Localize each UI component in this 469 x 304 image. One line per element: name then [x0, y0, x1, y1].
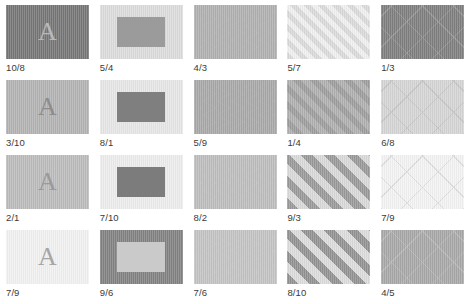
swatch-label: 8/2 [194, 212, 282, 224]
texture-swatch-chevron [194, 230, 277, 284]
swatch-letter-glyph: A [6, 19, 89, 45]
texture-swatch-diagonal [287, 230, 370, 284]
swatch-label: 4/5 [381, 287, 469, 299]
texture-swatch-grid: A10/85/44/35/71/3A3/108/15/91/46/8A2/17/… [0, 0, 469, 304]
swatch-label: 5/4 [100, 62, 188, 74]
texture-swatch-letter: A [6, 5, 89, 59]
swatch-cell: A10/8 [0, 0, 94, 75]
texture-swatch-letter: A [6, 80, 89, 134]
swatch-cell: A7/9 [0, 225, 94, 300]
texture-swatch-lattice [381, 80, 464, 134]
swatch-cell: 9/3 [281, 150, 375, 225]
swatch-cell: 5/7 [281, 0, 375, 75]
swatch-cell: 8/10 [281, 225, 375, 300]
texture-swatch-diagonal [287, 80, 370, 134]
swatch-inner-rectangle [117, 167, 165, 196]
swatch-cell: 1/4 [281, 75, 375, 150]
swatch-cell: 8/2 [188, 150, 282, 225]
swatch-label: 10/8 [6, 62, 94, 74]
texture-swatch-chevron [194, 155, 277, 209]
weave-overlay [287, 5, 370, 59]
weave-overlay [381, 80, 464, 134]
swatch-cell: 7/10 [94, 150, 188, 225]
swatch-inner-rectangle [117, 17, 165, 46]
texture-swatch-lattice [381, 230, 464, 284]
texture-swatch-rect [100, 230, 183, 284]
swatch-cell: 1/3 [375, 0, 469, 75]
texture-swatch-chevron [194, 5, 277, 59]
swatch-letter-glyph: A [6, 94, 89, 120]
swatch-cell: 4/5 [375, 225, 469, 300]
texture-swatch-letter: A [6, 155, 89, 209]
swatch-label: 9/6 [100, 287, 188, 299]
texture-swatch-rect [100, 5, 183, 59]
swatch-label: 4/3 [194, 62, 282, 74]
texture-swatch-chevron [194, 80, 277, 134]
weave-overlay [381, 155, 464, 209]
weave-overlay [287, 80, 370, 134]
swatch-label: 1/3 [381, 62, 469, 74]
swatch-cell: 5/4 [94, 0, 188, 75]
swatch-cell: 7/6 [188, 225, 282, 300]
swatch-label: 7/10 [100, 212, 188, 224]
texture-swatch-rect [100, 80, 183, 134]
swatch-label: 2/1 [6, 212, 94, 224]
swatch-label: 7/6 [194, 287, 282, 299]
swatch-cell: 6/8 [375, 75, 469, 150]
swatch-letter-glyph: A [6, 169, 89, 195]
swatch-label: 7/9 [381, 212, 469, 224]
texture-swatch-lattice [381, 5, 464, 59]
swatch-label: 1/4 [287, 137, 375, 149]
swatch-label: 7/9 [6, 287, 94, 299]
swatch-cell: A3/10 [0, 75, 94, 150]
swatch-cell: 7/9 [375, 150, 469, 225]
swatch-label: 8/10 [287, 287, 375, 299]
texture-swatch-letter: A [6, 230, 89, 284]
swatch-label: 3/10 [6, 137, 94, 149]
swatch-label: 8/1 [100, 137, 188, 149]
swatch-inner-rectangle [117, 242, 165, 271]
swatch-cell: 4/3 [188, 0, 282, 75]
texture-swatch-diagonal [287, 5, 370, 59]
texture-swatch-rect [100, 155, 183, 209]
texture-swatch-diagonal [287, 155, 370, 209]
weave-overlay [287, 230, 370, 284]
swatch-label: 5/7 [287, 62, 375, 74]
swatch-cell: 9/6 [94, 225, 188, 300]
swatch-cell: 5/9 [188, 75, 282, 150]
swatch-label: 6/8 [381, 137, 469, 149]
weave-overlay [381, 230, 464, 284]
swatch-cell: A2/1 [0, 150, 94, 225]
weave-overlay [381, 5, 464, 59]
texture-swatch-lattice [381, 155, 464, 209]
swatch-inner-rectangle [117, 92, 165, 121]
swatch-label: 9/3 [287, 212, 375, 224]
swatch-cell: 8/1 [94, 75, 188, 150]
weave-overlay [287, 155, 370, 209]
swatch-label: 5/9 [194, 137, 282, 149]
swatch-letter-glyph: A [6, 244, 89, 270]
